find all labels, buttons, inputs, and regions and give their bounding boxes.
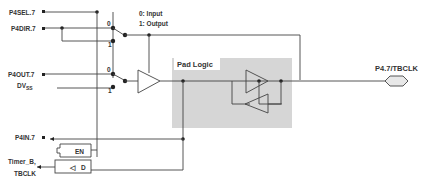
output-buffer-icon (138, 70, 160, 93)
dvss-label: DVSS (17, 82, 33, 91)
timer-label-1: Timer_B, (8, 158, 36, 166)
legend-output: 1: Output (139, 20, 169, 28)
mux2-one-label: 1 (108, 87, 112, 94)
p4out-label: P4OUT.7 (8, 71, 35, 78)
mux1-zero-label: 0 (107, 20, 111, 27)
timer-label-2: TBCLK (14, 170, 36, 177)
pad-logic-label: Pad Logic (177, 60, 213, 69)
p4dir-label: P4DIR.7 (11, 25, 36, 32)
latch-clk: ◁ (69, 164, 76, 172)
latch-en: EN (75, 148, 84, 155)
mux2-zero-label: 0 (107, 66, 111, 73)
p4in-label: P4IN.7 (15, 134, 35, 141)
schematic: Pad Logic P4SEL.7 P4DIR.7 P4OUT.7 DVSS P… (0, 0, 424, 188)
pin-connector-icon (385, 76, 408, 86)
latch: EN ◁ D (55, 144, 91, 173)
mux1-one-label: 1 (108, 41, 112, 48)
p4sel-label: P4SEL.7 (9, 9, 35, 16)
pin-label: P4.7/TBCLK (375, 64, 419, 73)
latch-d: D (81, 164, 86, 171)
legend-input: 0: Input (139, 10, 163, 18)
